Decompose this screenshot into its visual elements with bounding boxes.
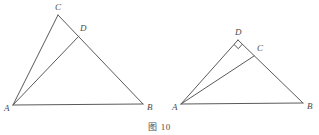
vertex-label-b: B (147, 102, 153, 112)
geometry-figure-page: ABCD ABCD 图 10 (0, 0, 319, 135)
figure-caption: 图 10 (0, 121, 319, 133)
vertex-label-b: B (307, 101, 313, 111)
vertex-label-a: A (171, 102, 178, 112)
figures-canvas: ABCD ABCD (0, 0, 319, 135)
vertex-label-c: C (55, 2, 62, 12)
segment-AD (13, 36, 79, 105)
vertex-label-c: C (257, 43, 264, 53)
vertex-label-a: A (3, 103, 10, 113)
vertex-label-d: D (79, 23, 87, 33)
segment-AB (181, 103, 303, 104)
segment-AC (13, 15, 58, 105)
segment-AB (13, 104, 143, 105)
segment-DB (238, 40, 303, 103)
left-figure: ABCD (3, 2, 153, 113)
segment-CB (58, 15, 143, 104)
right-figure: ABCD (171, 27, 313, 112)
right-angle-marker-at-D (234, 44, 242, 48)
vertex-label-d: D (234, 27, 242, 37)
